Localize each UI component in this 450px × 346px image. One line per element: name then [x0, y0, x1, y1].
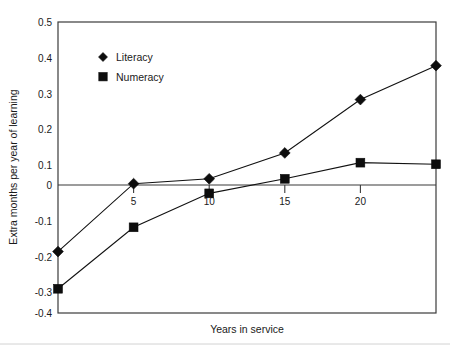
chart-figure: 0.5 0.4 0.3 0.2 0.1 0 -0.1 -0.2 -0.3 -0.…	[0, 0, 450, 346]
x-axis-title: Years in service	[210, 323, 284, 335]
legend-square-icon	[99, 73, 107, 81]
line-chart: 0.5 0.4 0.3 0.2 0.1 0 -0.1 -0.2 -0.3 -0.…	[0, 0, 450, 346]
data-point-numeracy-10	[205, 189, 214, 198]
data-point-numeracy-15	[280, 174, 289, 183]
y-tick-label: 0.2	[38, 124, 52, 135]
data-point-numeracy-5	[129, 223, 138, 232]
data-point-numeracy-20	[356, 158, 365, 167]
y-tick-label: -0.1	[35, 216, 53, 227]
x-tick-label: 20	[355, 196, 367, 207]
y-tick-label: 0.1	[38, 160, 52, 171]
data-point-numeracy-0	[54, 284, 63, 293]
y-tick-label: 0	[46, 180, 52, 191]
x-tick-label: 5	[131, 196, 137, 207]
y-tick-label: -0.2	[35, 252, 53, 263]
y-axis-title: Extra months per year of learning	[7, 89, 19, 244]
y-tick-label: 0.5	[38, 17, 52, 28]
y-tick-label: -0.4	[35, 308, 53, 319]
y-tick-label: -0.3	[35, 287, 53, 298]
y-tick-label: 0.3	[38, 89, 52, 100]
x-tick-label: 15	[279, 196, 291, 207]
y-tick-label: 0.4	[38, 53, 52, 64]
legend-label-numeracy: Numeracy	[116, 71, 165, 83]
data-point-numeracy-25	[432, 160, 441, 169]
legend-label-literacy: Literacy	[116, 51, 154, 63]
